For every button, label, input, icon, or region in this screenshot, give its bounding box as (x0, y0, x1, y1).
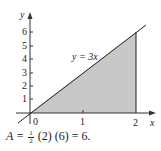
area-formula: A = 1 2 (2) (6) = 6. (6, 129, 90, 145)
formula-rhs: (2) (6) = 6. (38, 129, 91, 143)
shaded-area (30, 32, 136, 113)
y-tick-label-2: 2 (22, 80, 27, 91)
y-tick-label-6: 6 (22, 26, 27, 37)
line-label: y = 3x (71, 51, 98, 62)
y-axis-label: y (19, 9, 25, 20)
fraction-denominator: 2 (28, 138, 34, 145)
x-tick-label-1: 1 (80, 116, 85, 127)
y-tick-label-1: 1 (22, 93, 27, 104)
fraction-one-half: 1 2 (28, 130, 34, 145)
x-tick-label-0: 0 (33, 116, 38, 127)
y-tick-label-4: 4 (22, 53, 27, 64)
y-tick-label-5: 5 (22, 40, 27, 51)
area-under-line-chart: y x 6 5 4 3 2 1 0 1 2 y = 3x (0, 0, 161, 128)
y-tick-label-3: 3 (22, 67, 27, 78)
x-axis-label: x (149, 117, 155, 128)
formula-lhs: A = (6, 129, 24, 143)
x-tick-label-2: 2 (133, 117, 138, 128)
y-axis-arrow-icon (28, 12, 33, 19)
x-axis-arrow-icon (149, 111, 156, 116)
